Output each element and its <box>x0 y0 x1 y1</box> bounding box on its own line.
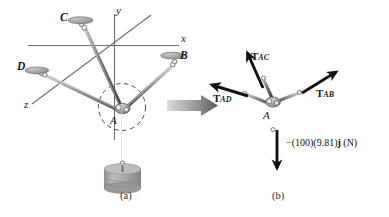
caption-b: (b) <box>272 191 284 202</box>
x-axis-label: x <box>181 33 186 44</box>
force-label-tension-ab: TAB <box>316 88 334 99</box>
anchor-label-b: B <box>180 50 188 62</box>
cable-ab-fitting <box>170 59 176 67</box>
cylindrical-weight <box>104 164 141 194</box>
anchor-label-d: D <box>17 61 25 73</box>
y-axis-label: y <box>116 5 121 16</box>
weight-force-label: −(100)(9.81)j (N) <box>286 138 357 148</box>
fbd-joint-hub <box>266 97 281 107</box>
cable-ad-highlight <box>47 75 116 108</box>
panel-a-graphics <box>25 14 185 193</box>
physics-figure: x y z B C D A (a) TAC TAB TAD A −(100)(9… <box>0 0 389 217</box>
z-axis-label: z <box>24 99 28 110</box>
force-label-tension-ad: TAD <box>213 93 231 104</box>
joint-label-a-panel-b: A <box>263 110 270 121</box>
joint-label-a-panel-a: A <box>110 115 117 126</box>
tension-ad-subscript: AD <box>220 95 231 104</box>
anchor-disc-d <box>25 67 49 74</box>
cable-ad <box>47 76 116 109</box>
tension-ab-subscript: AB <box>323 90 334 99</box>
cable-ab <box>128 67 171 106</box>
caption-a: (a) <box>120 191 132 202</box>
anchor-label-c: C <box>60 12 68 24</box>
weight-force-prefix: −(100)(9.81) <box>286 137 337 148</box>
tension-ac-subscript: AC <box>258 53 269 62</box>
anchor-disc-c <box>68 17 93 24</box>
cable-ab-highlight <box>128 66 171 105</box>
panel-b-graphics <box>212 53 336 168</box>
transition-arrow-graphic <box>167 95 218 116</box>
z-axis-line <box>32 15 151 104</box>
weight-force-units: (N) <box>341 137 357 148</box>
force-label-tension-ac: TAC <box>251 51 269 62</box>
figure-graphics <box>0 0 389 217</box>
